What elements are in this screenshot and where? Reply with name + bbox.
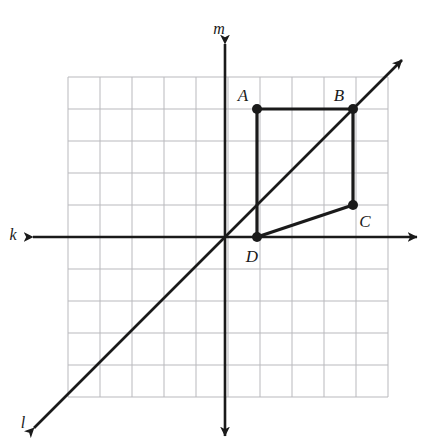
- point-label-b: B: [334, 86, 345, 105]
- line-label-k: k: [9, 226, 17, 243]
- axis-lines: [33, 44, 417, 436]
- vertex-dot-d: [252, 232, 262, 242]
- point-label-a: A: [237, 86, 249, 105]
- line-label-m: m: [213, 20, 225, 37]
- axis-line-l: [34, 60, 402, 428]
- coordinate-plane-figure: A B C D k m l: [0, 0, 425, 443]
- vertex-dot-b: [348, 104, 358, 114]
- point-label-c: C: [359, 212, 371, 231]
- line-label-l: l: [21, 414, 26, 431]
- vertex-dot-a: [252, 104, 262, 114]
- vertex-dot-c: [348, 200, 358, 210]
- figure-canvas: A B C D k m l: [0, 0, 425, 443]
- point-label-d: D: [245, 247, 259, 266]
